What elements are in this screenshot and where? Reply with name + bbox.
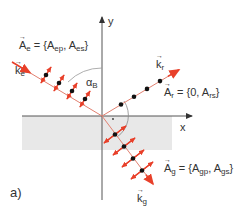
reflected-amplitude-label: Ar = {0, Ars} — [164, 87, 220, 100]
angle-subscript: B — [92, 81, 97, 90]
refracted-amplitude-label: Ag = {Agp, Ags} — [164, 163, 233, 176]
vector-k-r: k — [156, 59, 162, 70]
brewster-angle-label: αB — [86, 77, 98, 90]
right-angle-dot — [112, 118, 114, 120]
x-axis-label: x — [180, 122, 186, 133]
refracted-wavevector-label: kg — [137, 193, 147, 206]
brewster-angle-diagram — [0, 0, 240, 216]
panel-label: a) — [10, 186, 22, 199]
incident-wavevector-label: ke — [15, 65, 25, 78]
vector-A-g: A — [164, 163, 171, 174]
reflected-wavevector-label: kr — [156, 59, 164, 72]
medium-region — [22, 116, 172, 150]
vector-A-r: A — [164, 87, 171, 98]
vector-k-e: k — [15, 65, 21, 76]
vector-A-e: A — [19, 40, 26, 51]
vector-k-g: k — [137, 193, 143, 204]
y-axis-label: y — [108, 16, 114, 27]
incident-amplitude-label: Ae = {Aep, Aes} — [19, 40, 88, 53]
